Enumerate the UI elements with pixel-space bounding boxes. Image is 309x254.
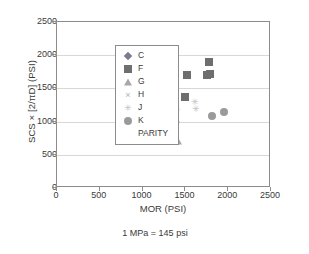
data-point	[181, 93, 189, 101]
y-tick-label: 1500	[17, 82, 57, 92]
data-point	[208, 112, 216, 120]
y-axis-label: SCS × [2/πD] (PSI)	[26, 7, 37, 197]
legend-label: PARITY	[138, 127, 168, 140]
legend-item-h[interactable]: ×H	[116, 88, 178, 101]
x-tick-label: 0	[36, 190, 76, 200]
legend-label: C	[138, 49, 144, 62]
legend-item-f[interactable]: F	[116, 62, 178, 75]
x-tick-mark	[56, 187, 57, 191]
circle-marker-icon	[116, 114, 138, 127]
data-point	[220, 108, 228, 116]
y-tick-label: 2500	[17, 16, 57, 26]
x-tick-label: 1000	[122, 190, 162, 200]
legend-label: J	[138, 101, 142, 114]
x-tick-mark	[99, 187, 100, 191]
legend-item-g[interactable]: G	[116, 75, 178, 88]
y-tick-label: 2000	[17, 49, 57, 59]
plot-area: ×××✳✳✳ CFG×H✳JKPARITY	[56, 21, 270, 187]
x-marker-icon: ×	[116, 88, 138, 101]
x-tick-label: 1500	[164, 190, 204, 200]
data-point	[203, 71, 211, 79]
legend-item-parity[interactable]: PARITY	[116, 127, 178, 140]
square-marker-icon	[116, 62, 138, 75]
x-tick-label: 2000	[207, 190, 247, 200]
data-point: ✳	[191, 104, 200, 113]
x-tick-label: 500	[79, 190, 119, 200]
x-tick-mark	[142, 187, 143, 191]
diamond-marker-icon	[116, 49, 138, 62]
legend-label: G	[138, 75, 145, 88]
figure-caption: 1 MPa = 145 psi	[40, 228, 270, 238]
chart-legend: CFG×H✳JKPARITY	[115, 45, 179, 145]
x-tick-mark	[270, 187, 271, 191]
y-tick-label: 1000	[17, 116, 57, 126]
legend-item-c[interactable]: C	[116, 49, 178, 62]
legend-item-j[interactable]: ✳J	[116, 101, 178, 114]
legend-label: K	[138, 114, 144, 127]
x-tick-mark	[227, 187, 228, 191]
y-tick-label: 500	[17, 149, 57, 159]
legend-item-k[interactable]: K	[116, 114, 178, 127]
chart-figure: SCS × [2/πD] (PSI) MOR (PSI) 1 MPa = 145…	[0, 0, 309, 254]
x-tick-label: 2500	[250, 190, 290, 200]
gridline	[57, 155, 269, 156]
x-tick-mark	[184, 187, 185, 191]
triangle-marker-icon	[116, 75, 138, 88]
x-axis-label: MOR (PSI)	[56, 203, 270, 214]
data-point	[183, 71, 191, 79]
star-marker-icon: ✳	[116, 101, 138, 114]
legend-no-marker	[116, 127, 138, 140]
legend-label: H	[138, 88, 144, 101]
legend-label: F	[138, 62, 143, 75]
data-point	[205, 58, 213, 66]
